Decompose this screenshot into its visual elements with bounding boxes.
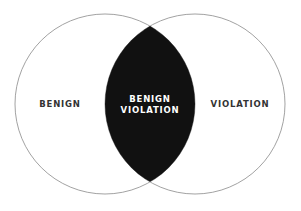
label-intersection-line2: VIOLATION	[121, 105, 180, 115]
label-benign: BENIGN	[39, 99, 80, 109]
venn-diagram: BENIGN VIOLATION BENIGN VIOLATION	[0, 0, 301, 211]
label-intersection-line1: BENIGN	[129, 94, 170, 104]
label-violation: VIOLATION	[211, 99, 270, 109]
